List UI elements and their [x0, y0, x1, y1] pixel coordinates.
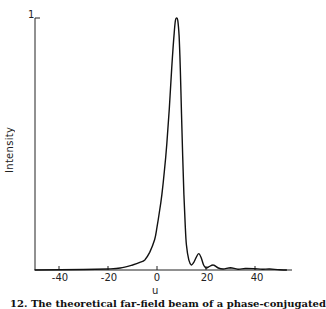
y-axis-label: Intensity: [4, 120, 24, 180]
y-tick-label-1: 1: [28, 9, 34, 20]
x-tick-label: -40: [45, 272, 75, 283]
x-tick-label: 20: [192, 272, 222, 283]
x-tick-label: 0: [142, 272, 172, 283]
x-axis-label: u: [152, 285, 158, 296]
axes: [35, 18, 292, 270]
figure-caption: 12. The theoretical far-field beam of a …: [10, 298, 310, 309]
intensity-curve: [35, 18, 287, 270]
x-tick-label: 40: [242, 272, 272, 283]
x-tick-label: -20: [94, 272, 124, 283]
